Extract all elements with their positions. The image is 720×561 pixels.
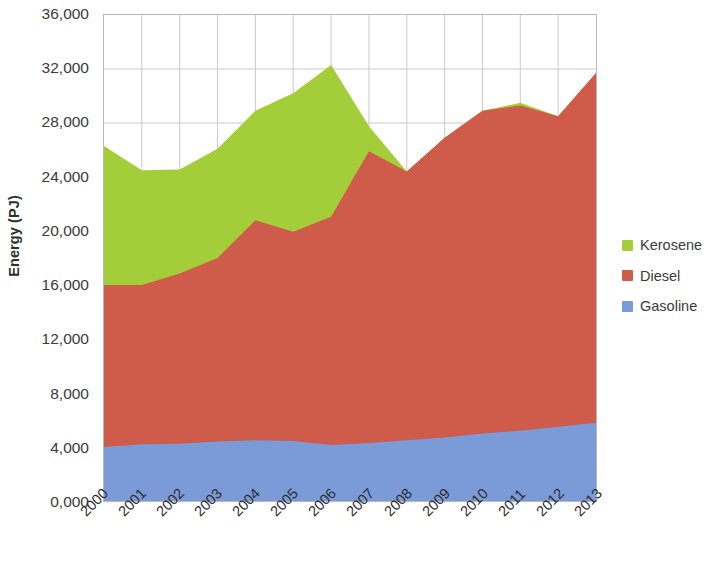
y-axis-tick-label: 12,000	[1, 331, 89, 347]
y-axis-tick-label: 16,000	[1, 277, 89, 293]
y-axis-tick-label: 36,000	[1, 6, 89, 22]
y-axis-tick-label: 4,000	[1, 440, 89, 456]
y-axis-tick-label: 32,000	[1, 60, 89, 76]
plot-area	[103, 14, 597, 502]
y-axis-tick-label: 0,000	[1, 494, 89, 510]
y-axis-tick-label: 28,000	[1, 114, 89, 130]
legend-swatch-icon	[622, 270, 633, 281]
y-axis-tick-label: 20,000	[1, 223, 89, 239]
legend-swatch-icon	[622, 301, 633, 312]
legend-item-diesel[interactable]: Diesel	[622, 269, 720, 284]
legend-label: Gasoline	[640, 299, 697, 314]
legend-item-gasoline[interactable]: Gasoline	[622, 299, 720, 314]
y-axis-tick-label: 8,000	[1, 386, 89, 402]
area-chart: Energy (PJ) 36,00032,00028,00024,00020,0…	[0, 0, 720, 561]
legend-swatch-icon	[622, 240, 633, 251]
y-axis-tick-labels: 36,00032,00028,00024,00020,00016,00012,0…	[0, 0, 95, 561]
y-axis-tick-label: 24,000	[1, 169, 89, 185]
legend-item-kerosene[interactable]: Kerosene	[622, 238, 720, 253]
legend-label: Diesel	[640, 269, 680, 284]
stacked-area-series	[104, 15, 596, 501]
chart-legend: KeroseneDieselGasoline	[622, 238, 720, 330]
legend-label: Kerosene	[640, 238, 702, 253]
